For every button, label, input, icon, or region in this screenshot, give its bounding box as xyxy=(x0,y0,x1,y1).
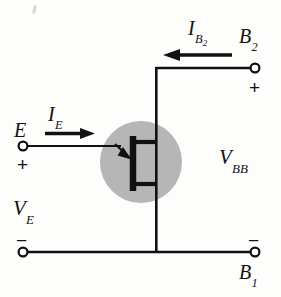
base1-terminal-label: B1 xyxy=(239,262,257,286)
base2-current-label-sub2: 2 xyxy=(203,38,207,48)
ujt-circuit-diagram: IB2 B2 + IE E + VBB VE − − B1 xyxy=(0,0,281,297)
base1-terminal-label-base: B xyxy=(239,261,251,283)
base2-plus-sign: + xyxy=(249,78,260,97)
terminal-base2[interactable] xyxy=(251,64,260,73)
emitter-voltage-label: VE xyxy=(13,198,34,222)
base2-current-label: IB2 xyxy=(188,18,207,42)
base2-terminal-label-base: B xyxy=(239,25,251,47)
base2-terminal-label-sub: 2 xyxy=(251,40,257,54)
base1-minus-sign: − xyxy=(248,231,259,250)
emitter-minus-sign: − xyxy=(16,231,27,250)
base2-current-arrowhead xyxy=(163,49,180,61)
supply-voltage-label: VBB xyxy=(219,147,248,171)
base1-terminal-label-sub: 1 xyxy=(251,276,257,290)
supply-voltage-label-base: V xyxy=(219,145,232,169)
base2-current-label-sub: B xyxy=(195,32,203,46)
emitter-terminal-label: E xyxy=(14,120,26,140)
emitter-voltage-label-sub: E xyxy=(26,212,34,227)
emitter-current-label: IE xyxy=(48,104,62,128)
emitter-plus-sign: + xyxy=(17,155,28,174)
base2-current-label-base: I xyxy=(188,17,195,39)
terminal-emitter[interactable] xyxy=(19,142,28,151)
emitter-current-label-sub: E xyxy=(55,118,63,132)
base2-terminal-label: B2 xyxy=(239,26,257,50)
ujt-highlight-disc xyxy=(100,121,182,203)
emitter-current-arrowhead xyxy=(80,128,95,139)
emitter-current-label-base: I xyxy=(48,103,55,125)
supply-voltage-label-sub: BB xyxy=(232,161,248,176)
emitter-voltage-label-base: V xyxy=(13,196,26,220)
